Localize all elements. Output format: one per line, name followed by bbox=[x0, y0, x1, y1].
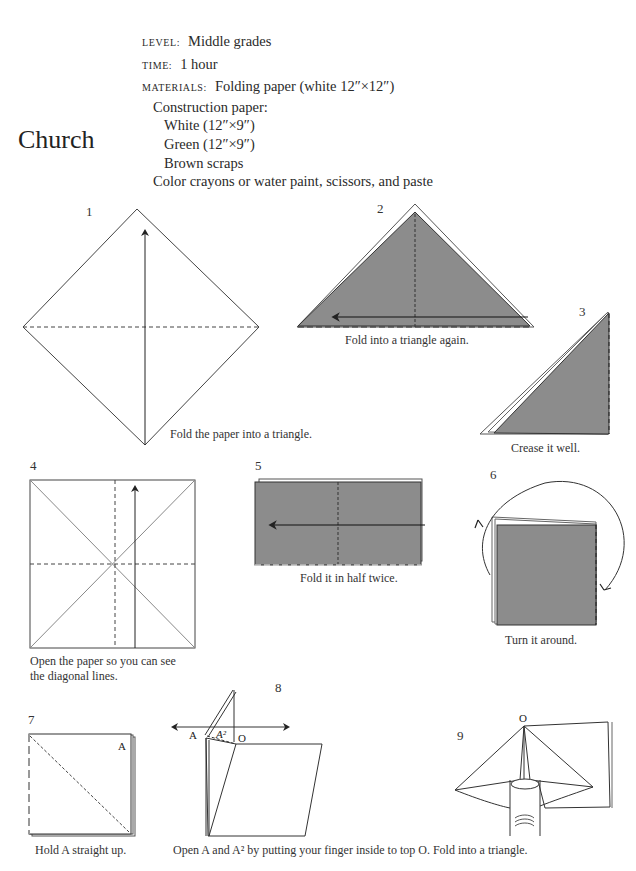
point-o-label: O bbox=[519, 712, 527, 724]
step9-diagram: O bbox=[455, 712, 612, 836]
folding-diagrams: A A A² O O bbox=[0, 0, 636, 871]
step-number: 4 bbox=[30, 458, 37, 474]
step-number: 1 bbox=[86, 204, 93, 220]
step7-diagram: A bbox=[29, 734, 135, 836]
step-number: 2 bbox=[377, 201, 384, 217]
step-number: 6 bbox=[490, 467, 497, 483]
step-number: 7 bbox=[28, 712, 35, 728]
step-number: 8 bbox=[275, 680, 282, 696]
point-o-label: O bbox=[238, 732, 246, 744]
step4-caption-line1: Open the paper so you can see bbox=[30, 654, 176, 669]
step4-diagram bbox=[30, 480, 195, 648]
step8-diagram: A A² O bbox=[174, 690, 322, 836]
step1-diagram bbox=[23, 209, 259, 445]
step-number: 3 bbox=[579, 304, 586, 320]
step3-caption: Crease it well. bbox=[511, 441, 580, 456]
step7-caption: Hold A straight up. bbox=[35, 843, 126, 858]
step3-diagram bbox=[480, 312, 609, 434]
step6-caption: Turn it around. bbox=[505, 633, 577, 648]
point-a-label: A bbox=[118, 740, 126, 752]
step-number: 5 bbox=[255, 458, 262, 474]
step5-diagram bbox=[255, 479, 425, 565]
step6-diagram bbox=[475, 481, 624, 625]
step5-caption: Fold it in half twice. bbox=[300, 571, 398, 586]
step-number: 9 bbox=[457, 728, 464, 744]
step2-diagram bbox=[297, 204, 534, 328]
point-a2-label: A² bbox=[215, 728, 227, 740]
step2-caption: Fold into a triangle again. bbox=[345, 333, 469, 348]
step4-caption-line2: the diagonal lines. bbox=[30, 669, 118, 684]
step1-caption: Fold the paper into a triangle. bbox=[170, 427, 312, 442]
point-a-label: A bbox=[189, 729, 197, 741]
step8-caption: Open A and A² by putting your finger ins… bbox=[173, 843, 528, 858]
